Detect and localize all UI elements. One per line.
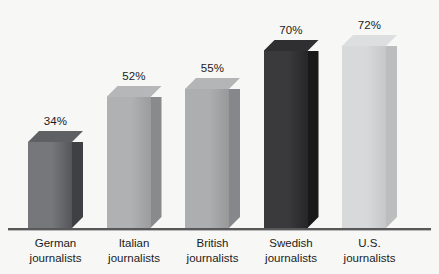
bar-top-face	[342, 35, 397, 46]
category-label-line2: journalists	[246, 251, 337, 266]
category-label-3: Britishjournalists	[167, 236, 258, 266]
category-label-line2: journalists	[10, 251, 101, 266]
category-label-line1: British	[167, 236, 258, 251]
plot-area: 34%52%55%70%72%	[0, 0, 439, 230]
category-label-1: Germanjournalists	[10, 236, 101, 266]
category-label-2: Italianjournalists	[89, 236, 180, 266]
category-label-4: Swedishjournalists	[246, 236, 337, 266]
bar-front-face	[28, 142, 72, 228]
bar-side-face	[72, 142, 83, 228]
bar-value-label: 72%	[336, 19, 403, 31]
bar-5	[342, 46, 386, 228]
category-label-line1: German	[10, 236, 101, 251]
bar-value-label: 52%	[101, 70, 168, 82]
bar-1	[28, 142, 72, 228]
category-label-line2: journalists	[167, 251, 258, 266]
category-label-line1: Swedish	[246, 236, 337, 251]
category-label-5: U.S.journalists	[324, 236, 415, 266]
bar-side-face	[308, 51, 319, 228]
bar-front-face	[342, 46, 386, 228]
x-axis-baseline	[8, 228, 431, 230]
bar-top-face	[28, 131, 83, 142]
category-label-line1: Italian	[89, 236, 180, 251]
bar-4	[264, 51, 308, 228]
category-label-line2: journalists	[89, 251, 180, 266]
bar-front-face	[107, 97, 151, 228]
bar-value-label: 70%	[258, 24, 325, 36]
bar-front-face	[185, 89, 229, 228]
category-label-line1: U.S.	[324, 236, 415, 251]
bar-side-face	[151, 97, 162, 228]
bar-value-label: 34%	[22, 115, 89, 127]
bar-side-face	[386, 46, 397, 228]
bar-top-face	[107, 86, 162, 97]
bar-2	[107, 97, 151, 228]
bar-top-face	[185, 78, 240, 89]
bar-value-label: 55%	[179, 62, 246, 74]
category-label-line2: journalists	[324, 251, 415, 266]
bar-front-face	[264, 51, 308, 228]
bar-top-face	[264, 40, 319, 51]
bar-side-face	[229, 89, 240, 228]
bar-chart: 34%52%55%70%72% GermanjournalistsItalian…	[0, 0, 439, 274]
bar-3	[185, 89, 229, 228]
